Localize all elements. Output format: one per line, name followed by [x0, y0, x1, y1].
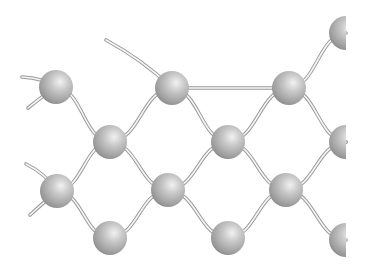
bond-layer	[22, 33, 346, 240]
atom-top-2-sphere	[155, 71, 189, 105]
atom-mid-2-sphere	[211, 125, 245, 159]
atom-upper-right-sphere	[329, 16, 363, 50]
lattice-svg	[0, 0, 367, 271]
atom-bottom-1-sphere	[93, 221, 127, 255]
atom-mid-right-sphere	[329, 125, 363, 159]
atom-mid-1-sphere	[93, 125, 127, 159]
atom-top-3-sphere	[272, 71, 306, 105]
atom-bottom-right-sphere	[329, 223, 363, 257]
atom-lower-2-sphere	[151, 173, 185, 207]
atom-lower-3-sphere	[269, 173, 303, 207]
atom-top-1-sphere	[39, 70, 73, 104]
lattice-diagram	[0, 0, 367, 271]
atom-bottom-2-sphere	[211, 221, 245, 255]
atom-lower-1-sphere	[40, 174, 74, 208]
